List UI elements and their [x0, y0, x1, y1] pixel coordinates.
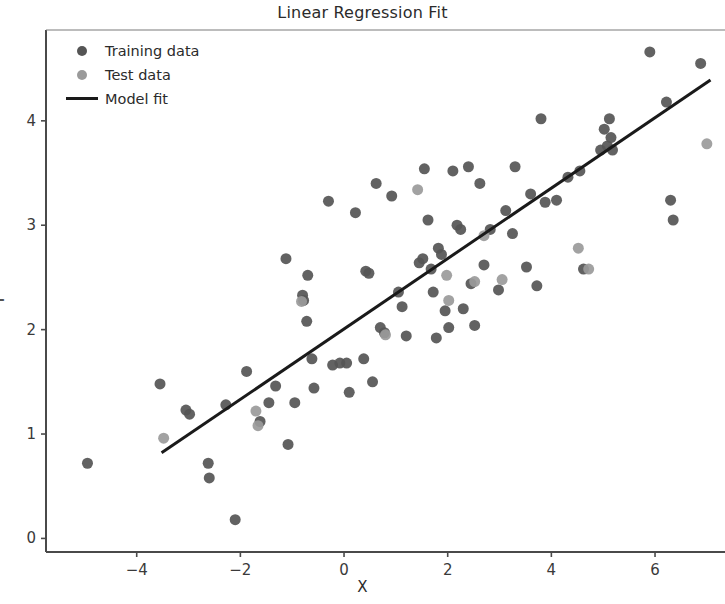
scatter-point [500, 205, 511, 216]
scatter-point [605, 132, 616, 143]
x-tick-label: 0 [339, 561, 349, 579]
y-axis-label: Y [0, 295, 8, 304]
scatter-point [583, 264, 594, 275]
x-axis-label: X [0, 578, 725, 596]
scatter-point [440, 305, 451, 316]
scatter-point [604, 113, 615, 124]
scatter-point [301, 316, 312, 327]
scatter-point [380, 329, 391, 340]
scatter-point [458, 303, 469, 314]
scatter-point [665, 195, 676, 206]
scatter-point [428, 287, 439, 298]
scatter-point [695, 58, 706, 69]
scatter-point [241, 366, 252, 377]
scatter-point [701, 138, 712, 149]
y-tick-label: 4 [2, 112, 36, 130]
scatter-point [289, 397, 300, 408]
legend-line-swatch [66, 97, 98, 100]
legend-label: Model fit [105, 91, 168, 107]
scatter-point [203, 458, 214, 469]
scatter-point [431, 332, 442, 343]
scatter-point [358, 353, 369, 364]
scatter-point [447, 165, 458, 176]
scatter-point [250, 406, 261, 417]
scatter-point [417, 253, 428, 264]
scatter-point [155, 378, 166, 389]
scatter-point [573, 243, 584, 254]
scatter-series-training-data [82, 46, 706, 525]
scatter-point [323, 196, 334, 207]
legend-item[interactable]: Training data [63, 40, 199, 61]
scatter-point [344, 387, 355, 398]
legend-item[interactable]: Model fit [63, 88, 199, 109]
scatter-point [308, 383, 319, 394]
x-tick-label: −2 [229, 561, 251, 579]
scatter-point [423, 215, 434, 226]
legend-item[interactable]: Test data [63, 64, 199, 85]
scatter-point [280, 253, 291, 264]
scatter-point [551, 195, 562, 206]
y-tick-label: 2 [2, 321, 36, 339]
scatter-point [419, 163, 430, 174]
legend-line-key [63, 97, 101, 100]
x-tick-label: 6 [650, 561, 660, 579]
legend-dot-swatch [77, 70, 87, 80]
scatter-point [296, 296, 307, 307]
scatter-point [204, 472, 215, 483]
x-tick-label: −4 [126, 561, 148, 579]
scatter-point [401, 330, 412, 341]
legend-label: Training data [105, 43, 199, 59]
x-tick-label: 4 [547, 561, 557, 579]
scatter-point [644, 46, 655, 57]
scatter-point [283, 439, 294, 450]
scatter-point [463, 161, 474, 172]
scatter-point [493, 284, 504, 295]
scatter-point [443, 322, 454, 333]
scatter-point [386, 191, 397, 202]
y-tick-label: 0 [2, 529, 36, 547]
scatter-point [525, 188, 536, 199]
regression-line [162, 80, 711, 453]
scatter-point [536, 113, 547, 124]
chart-legend: Training dataTest dataModel fit [57, 36, 209, 115]
y-tick-label: 3 [2, 216, 36, 234]
scatter-point [270, 381, 281, 392]
scatter-point [469, 276, 480, 287]
scatter-point [668, 215, 679, 226]
scatter-point [478, 259, 489, 270]
y-tick-label: 1 [2, 425, 36, 443]
scatter-point [497, 274, 508, 285]
scatter-point [521, 261, 532, 272]
scatter-point [397, 301, 408, 312]
scatter-point [510, 161, 521, 172]
scatter-point [507, 228, 518, 239]
scatter-point [252, 420, 263, 431]
model-fit-line [162, 80, 711, 453]
scatter-point [367, 376, 378, 387]
scatter-point [184, 409, 195, 420]
scatter-point [341, 358, 352, 369]
scatter-point [350, 207, 361, 218]
legend-label: Test data [105, 67, 171, 83]
legend-marker-key [63, 46, 101, 56]
scatter-point [230, 514, 241, 525]
scatter-point [302, 270, 313, 281]
scatter-point [469, 320, 480, 331]
scatter-point [474, 178, 485, 189]
scatter-point [363, 268, 374, 279]
scatter-point [455, 224, 466, 235]
scatter-point [531, 280, 542, 291]
scatter-point [263, 397, 274, 408]
scatter-point [443, 295, 454, 306]
scatter-point [412, 184, 423, 195]
scatter-point [82, 458, 93, 469]
scatter-point [540, 197, 551, 208]
scatter-point [436, 249, 447, 260]
scatter-point [441, 270, 452, 281]
legend-dot-swatch [77, 46, 87, 56]
scatter-point [371, 178, 382, 189]
scatter-point [158, 433, 169, 444]
x-tick-label: 2 [443, 561, 453, 579]
figure-canvas: Linear Regression Fit 01234−4−20246 X Y … [0, 0, 725, 604]
axis-ticks [41, 121, 655, 557]
